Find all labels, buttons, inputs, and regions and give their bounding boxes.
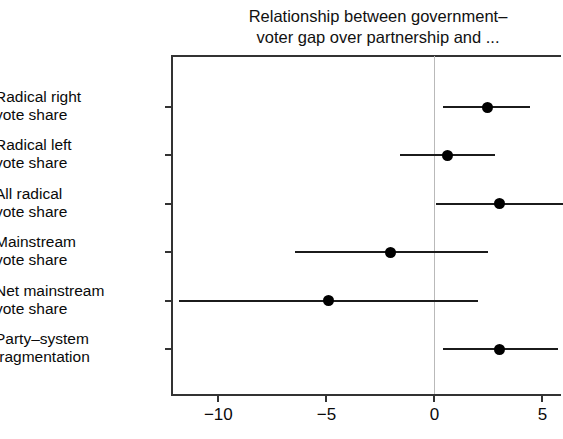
point-estimate-marker — [323, 295, 334, 306]
x-axis-tick — [433, 394, 435, 402]
plot-area: −10−505Radical right vote shareRadical l… — [171, 55, 561, 396]
x-axis-tick — [541, 394, 543, 402]
y-axis-tick — [165, 154, 173, 156]
y-axis-category-label: Radical right vote share — [0, 88, 160, 124]
x-axis-tick-label: 5 — [538, 405, 547, 425]
x-axis-tick — [217, 394, 219, 402]
point-estimate-marker — [442, 150, 453, 161]
point-estimate-marker — [482, 102, 493, 113]
y-axis-category-label: All radical vote share — [0, 185, 160, 221]
y-axis-category-label: Net mainstream vote share — [0, 282, 160, 318]
x-axis-tick-label: −5 — [317, 405, 336, 425]
plot-inner: −10−505Radical right vote shareRadical l… — [173, 57, 561, 394]
zero-reference-line — [434, 56, 435, 394]
point-estimate-marker — [494, 198, 505, 209]
y-axis-category-label: Party–system fragmentation — [0, 330, 160, 366]
y-axis-category-label: Mainstream vote share — [0, 233, 160, 269]
x-axis-tick-label: 0 — [430, 405, 439, 425]
point-estimate-marker — [494, 344, 505, 355]
x-axis-tick — [325, 394, 327, 402]
y-axis-tick — [165, 348, 173, 350]
y-axis-tick — [165, 203, 173, 205]
x-axis-tick-label: −10 — [204, 405, 233, 425]
y-axis-tick — [165, 251, 173, 253]
point-estimate-marker — [385, 247, 396, 258]
y-axis-tick — [165, 106, 173, 108]
chart-title: Relationship between government– voter g… — [195, 6, 561, 48]
y-axis-tick — [165, 300, 173, 302]
y-axis-category-label: Radical left vote share — [0, 136, 160, 172]
